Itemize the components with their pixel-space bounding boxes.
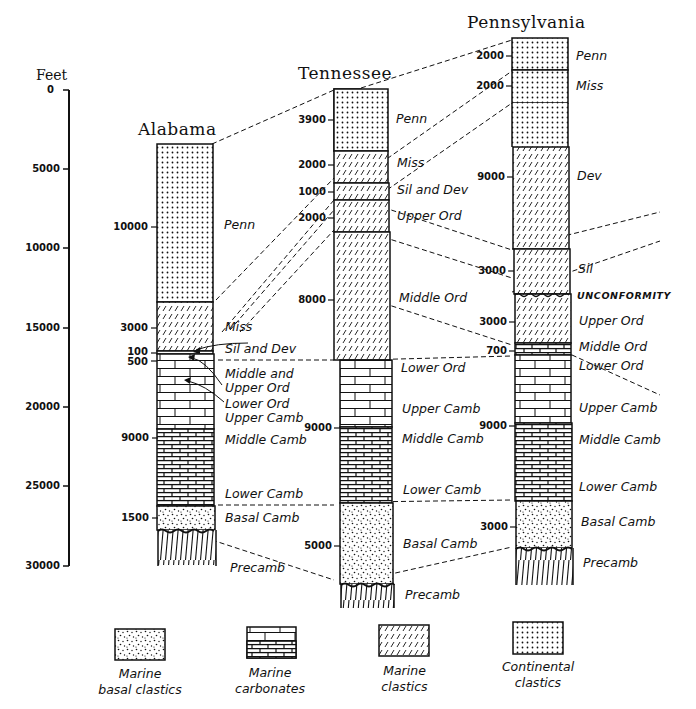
- pennsylvania-thickness: 2000: [460, 81, 504, 91]
- legend-label-marine-clastics: Marine clastics: [357, 663, 452, 694]
- pennsylvania-unit-miss: Miss: [576, 80, 603, 93]
- pennsylvania-thickness: 9000: [460, 421, 507, 431]
- legend-line: Continental: [485, 659, 591, 675]
- tennessee-unit-upper-ord: Upper Ord: [397, 210, 462, 223]
- alabama-unit-basal-camb: Basal Camb: [225, 512, 299, 525]
- alabama-thickness: 3000: [100, 323, 148, 333]
- pennsylvania-thickness: 700: [460, 346, 507, 356]
- tennessee-thickness: 2000: [280, 160, 326, 170]
- column-title-pennsylvania: Pennsylvania: [467, 14, 586, 31]
- legend-swatch-marine-basal-clastics: [115, 629, 165, 660]
- alabama-unit-precamb: Precamb: [230, 562, 285, 575]
- pennsylvania-unit-upper-ord: Upper Ord: [579, 315, 644, 328]
- alabama-unit-penn: Penn: [224, 219, 255, 232]
- tennessee-unit-middle-camb: Middle Camb: [402, 433, 484, 446]
- pennsylvania-unit-penn: Penn: [576, 50, 607, 63]
- pennsylvania-thickness: 3000: [460, 522, 508, 532]
- alabama-thickness: 10000: [100, 222, 148, 232]
- pennsylvania-thickness: 3000: [460, 266, 506, 276]
- pennsylvania-unit-basal-camb: Basal Camb: [581, 516, 655, 529]
- pennsylvania-thickness: 2000: [460, 51, 504, 61]
- legend-line: carbonates: [220, 681, 320, 697]
- pennsylvania-unit-precamb: Precamb: [583, 557, 638, 570]
- legend-swatches: [115, 622, 563, 660]
- tennessee-unit-sil-dev: Sil and Dev: [397, 184, 468, 197]
- tennessee-thickness: 8000: [280, 295, 326, 305]
- scale-tick: 5000: [10, 164, 60, 174]
- tennessee-thickness: 5000: [286, 541, 332, 551]
- feet-scale-axis: [63, 90, 69, 566]
- legend-label-marine-carbonates: Marine carbonates: [220, 665, 320, 696]
- pennsylvania-unit-upper-camb: Upper Camb: [579, 402, 657, 415]
- scale-unit-label: Feet: [36, 68, 67, 82]
- alabama-unit-sil-dev: Sil and Dev: [225, 343, 296, 356]
- pennsylvania-unit-sil: Sil: [578, 263, 593, 276]
- pennsylvania-unit-lower-ord: Lower Ord: [579, 360, 644, 373]
- scale-tick: 30000: [10, 561, 60, 571]
- tennessee-unit-upper-camb: Upper Camb: [402, 403, 480, 416]
- legend-swatch-continental-clastics: [513, 622, 563, 654]
- tennessee-unit-lower-ord: Lower Ord: [401, 362, 466, 375]
- legend-line: Marine: [357, 663, 452, 679]
- alabama-unit-middle-upper-ord: Middle and: [225, 368, 294, 381]
- tennessee-unit-lower-camb: Lower Camb: [403, 484, 481, 497]
- legend-line: clastics: [357, 679, 452, 695]
- legend-line: Marine: [220, 665, 320, 681]
- tennessee-column: [334, 89, 394, 608]
- tennessee-unit-middle-ord: Middle Ord: [399, 292, 467, 305]
- scale-tick: 0: [20, 85, 54, 95]
- alabama-unit-lower-ord: Lower Ord: [225, 398, 290, 411]
- column-title-alabama: Alabama: [138, 121, 217, 138]
- tennessee-thickness: 3900: [280, 115, 326, 125]
- pennsylvania-unit-middle-ord: Middle Ord: [579, 341, 647, 354]
- pennsylvania-thickness: 3000: [460, 317, 507, 327]
- tennessee-unit-penn: Penn: [396, 113, 427, 126]
- tennessee-unit-precamb: Precamb: [405, 589, 460, 602]
- alabama-column: [157, 144, 216, 566]
- alabama-unit-lower-camb: Lower Camb: [225, 488, 303, 501]
- scale-tick: 20000: [10, 402, 60, 412]
- legend-line: clastics: [485, 675, 591, 691]
- column-title-tennessee: Tennessee: [298, 65, 392, 82]
- alabama-unit-miss: Miss: [225, 321, 252, 334]
- scale-tick: 15000: [10, 323, 60, 333]
- tennessee-thickness: 2000: [280, 213, 326, 223]
- tennessee-unit-basal-camb: Basal Camb: [403, 538, 477, 551]
- tennessee-thickness: 9000: [286, 423, 332, 433]
- scale-tick: 10000: [10, 243, 60, 253]
- pennsylvania-unit-lower-camb: Lower Camb: [579, 481, 657, 494]
- alabama-thickness: 9000: [100, 433, 149, 443]
- alabama-unit-middle-upper-ord-2: Upper Ord: [225, 382, 290, 395]
- stratigraphic-correlation-diagram: Feet 0 5000 10000 15000 20000 25000 3000…: [0, 0, 696, 709]
- pennsylvania-thickness: 9000: [460, 172, 505, 182]
- alabama-thickness: 500: [100, 357, 148, 367]
- pennsylvania-unit-dev: Dev: [577, 170, 602, 183]
- alabama-thickness: 1500: [100, 513, 149, 523]
- pennsylvania-unit-middle-camb: Middle Camb: [579, 434, 661, 447]
- pennsylvania-column: [512, 38, 573, 585]
- tennessee-thickness: 1000: [280, 187, 326, 197]
- legend-line: basal clastics: [85, 682, 195, 698]
- alabama-unit-middle-camb: Middle Camb: [225, 434, 307, 447]
- scale-tick: 25000: [10, 481, 60, 491]
- legend-line: Marine: [85, 666, 195, 682]
- legend-label-continental-clastics: Continental clastics: [485, 659, 591, 690]
- legend-label-marine-basal-clastics: Marine basal clastics: [85, 666, 195, 697]
- legend-swatch-marine-clastics: [379, 625, 429, 656]
- tennessee-unit-miss: Miss: [397, 157, 424, 170]
- pennsylvania-unconformity-label: UNCONFORMITY: [577, 291, 671, 301]
